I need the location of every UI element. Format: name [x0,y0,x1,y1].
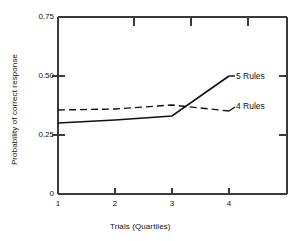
series-leader-4-rules [229,107,235,111]
plot-canvas [0,0,305,241]
chart-figure: Probability of correct response Trials (… [0,0,305,241]
series-line-4-rules [58,105,229,111]
right-axis-ticks [279,76,287,135]
series-line-5-rules [58,76,229,123]
x-axis-ticks [115,188,229,194]
top-axis-ticks [134,17,248,26]
